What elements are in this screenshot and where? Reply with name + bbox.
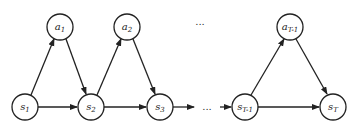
edge-a1-s2 (66, 39, 86, 94)
node-aT-1-sub: T-1 (288, 26, 299, 34)
node-s3-sub: 3 (160, 106, 165, 114)
edge-s1-a1 (31, 39, 54, 95)
node-a1: a1 (47, 14, 73, 40)
node-s2-sub: 2 (90, 106, 96, 114)
mdp-diagram: a1 a2 aT-1 s1 s2 s3 sT-1 sT ... ... (0, 0, 350, 135)
node-s3: s3 (147, 94, 173, 120)
ellipsis-bottom: ... (202, 101, 212, 112)
node-sT-1-sub: T-1 (242, 106, 253, 114)
node-aT-1: aT-1 (277, 14, 303, 40)
edge-s2-a2 (97, 39, 121, 95)
ellipsis-top: ... (195, 16, 205, 27)
edge-aT1-sT (296, 39, 327, 94)
node-sT: sT (320, 94, 346, 120)
edge-a2-s3 (133, 39, 155, 94)
node-a2: a2 (114, 14, 140, 40)
node-sT-1: sT-1 (232, 94, 258, 120)
edges (31, 39, 327, 107)
node-s2: s2 (78, 94, 104, 120)
node-a2-sub: 2 (127, 26, 133, 34)
node-s1-sub: 1 (25, 106, 29, 114)
node-s1: s1 (12, 94, 38, 120)
node-a1-sub: 1 (61, 26, 65, 34)
edge-sT1-aT1 (251, 39, 284, 95)
